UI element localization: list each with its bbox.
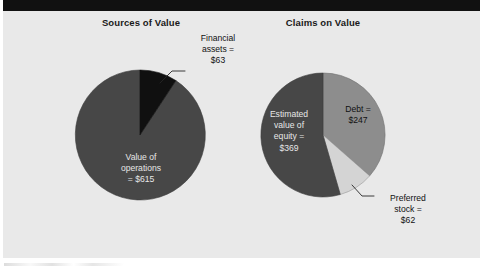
- pie-label-preferred-stock: Preferredstock =$62: [372, 193, 444, 227]
- pie-label-estimated-value-of-equity: Estimatedvalue ofequity =$369: [261, 109, 317, 154]
- figure-root: Sources of Value Claims on Value Financi…: [0, 0, 483, 269]
- pie-label-financial-assets: Financialassets =$63: [182, 33, 254, 67]
- pie-label-debt: Debt =$247: [332, 104, 384, 126]
- scan-artifact-strip: [0, 259, 483, 269]
- pie-label-value-of-operations: Value ofoperations= $615: [100, 152, 182, 186]
